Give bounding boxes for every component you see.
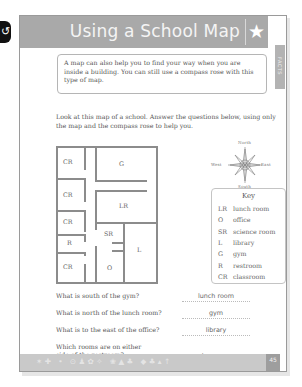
map-key: Key LRlunch room Ooffice SRscience room … xyxy=(211,188,286,284)
key-abbr: O xyxy=(218,216,233,223)
map-room-label: LR xyxy=(119,202,128,209)
bookmark-icon: ↺ xyxy=(1,25,10,38)
map-wall xyxy=(56,146,58,284)
map-room-label: G xyxy=(119,160,124,167)
map-wall xyxy=(123,222,125,284)
intro-text: A map can also help you to find your way… xyxy=(64,59,260,85)
key-entry: Rrestroom xyxy=(218,259,275,270)
side-bookmark-tab: ↺ xyxy=(0,21,11,43)
map-room-label: CR xyxy=(63,191,73,198)
map-wall xyxy=(56,178,86,180)
key-abbr: CR xyxy=(218,273,233,280)
map-wall xyxy=(56,252,86,254)
intro-box: A map can also help you to find your way… xyxy=(57,54,267,94)
answer-field[interactable]: lunch room xyxy=(182,292,250,302)
map-wall xyxy=(95,222,158,224)
map-wall xyxy=(156,146,158,284)
key-abbr: G xyxy=(218,250,233,257)
map-room-label: R xyxy=(67,239,72,246)
key-entry: LRlunch room xyxy=(218,203,275,214)
map-wall xyxy=(84,210,86,232)
key-abbr: R xyxy=(218,262,233,269)
compass-west-label: West xyxy=(211,162,222,167)
page-number: 45 xyxy=(266,354,280,371)
compass-rose-icon xyxy=(227,146,263,184)
key-entries: LRlunch room Ooffice SRscience room Llib… xyxy=(218,203,275,282)
answer-field[interactable]: gym xyxy=(182,309,250,319)
header-divider xyxy=(245,19,246,45)
instructions-text: Look at this map of a school. Answer the… xyxy=(56,113,276,130)
map-wall xyxy=(84,264,86,284)
map-room-label: O xyxy=(107,264,112,271)
question-text: What is south of the gym? xyxy=(56,292,176,300)
map-wall xyxy=(112,250,125,252)
question-text: What is north of the lunch room? xyxy=(56,309,176,317)
question-text: What is to the east of the office? xyxy=(56,326,176,334)
key-abbr: SR xyxy=(218,228,233,235)
map-wall xyxy=(84,178,86,202)
key-meaning: science room xyxy=(233,228,275,235)
key-meaning: lunch room xyxy=(233,205,269,212)
map-wall xyxy=(95,146,97,182)
map-wall xyxy=(95,190,147,192)
map-wall xyxy=(112,242,125,244)
map-wall xyxy=(84,146,86,170)
map-wall xyxy=(84,252,86,256)
map-wall xyxy=(56,282,158,284)
key-abbr: L xyxy=(218,239,233,246)
key-entry: CRclassroom xyxy=(218,271,275,282)
map-wall xyxy=(56,210,86,212)
key-title: Key xyxy=(212,192,285,200)
workbook-page: Using a School Map ★ FACTS A map can als… xyxy=(19,15,287,372)
facts-tab-label: FACTS xyxy=(277,47,283,85)
map-room-label: SR xyxy=(104,230,113,237)
map-wall xyxy=(56,146,158,148)
page-title: Using a School Map xyxy=(70,21,240,41)
key-meaning: library xyxy=(233,239,254,246)
key-meaning: gym xyxy=(233,250,247,257)
facts-tab: FACTS xyxy=(275,45,285,89)
map-wall xyxy=(84,234,86,242)
map-room-label: CR xyxy=(63,218,73,225)
map-room-label: CR xyxy=(63,158,73,165)
key-entry: SRscience room xyxy=(218,226,275,237)
map-wall xyxy=(95,190,97,224)
key-meaning: office xyxy=(233,216,251,223)
key-entry: Ggym xyxy=(218,248,275,259)
key-abbr: LR xyxy=(218,205,233,212)
page-footer: ✶✚ • ⊙♟✿✧ ❀▲♣ ◆♣▴↑ 45 xyxy=(20,354,268,371)
page-header: Using a School Map ★ xyxy=(20,16,268,48)
map-wall xyxy=(95,222,97,230)
key-entry: Ooffice xyxy=(218,214,275,225)
map-wall xyxy=(95,246,97,284)
key-meaning: restroom xyxy=(233,262,262,269)
key-entry: Llibrary xyxy=(218,237,275,248)
compass-north-label: North xyxy=(238,140,251,145)
map-room-label: CR xyxy=(63,263,73,270)
star-icon: ★ xyxy=(248,19,265,43)
map-wall xyxy=(95,180,147,182)
footer-decoration-icons: ✶✚ • ⊙♟✿✧ ❀▲♣ ◆♣▴↑ xyxy=(36,357,173,366)
map-wall xyxy=(56,234,86,236)
compass-rose: North West East South xyxy=(215,140,277,190)
key-meaning: classroom xyxy=(233,273,265,280)
answer-field[interactable]: library xyxy=(182,326,250,336)
map-room-label: L xyxy=(137,246,141,253)
school-map: CR G CR LR CR SR R L CR O xyxy=(56,146,158,284)
